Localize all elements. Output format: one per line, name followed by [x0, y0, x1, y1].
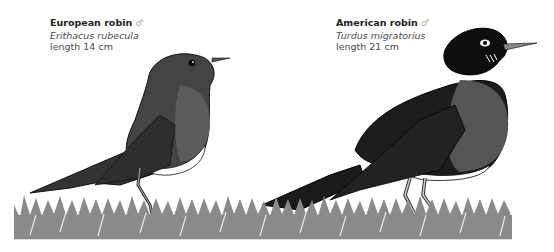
illustration: [0, 0, 554, 252]
american-robin-illustration: [262, 28, 537, 235]
grass-illustration: [14, 195, 512, 240]
